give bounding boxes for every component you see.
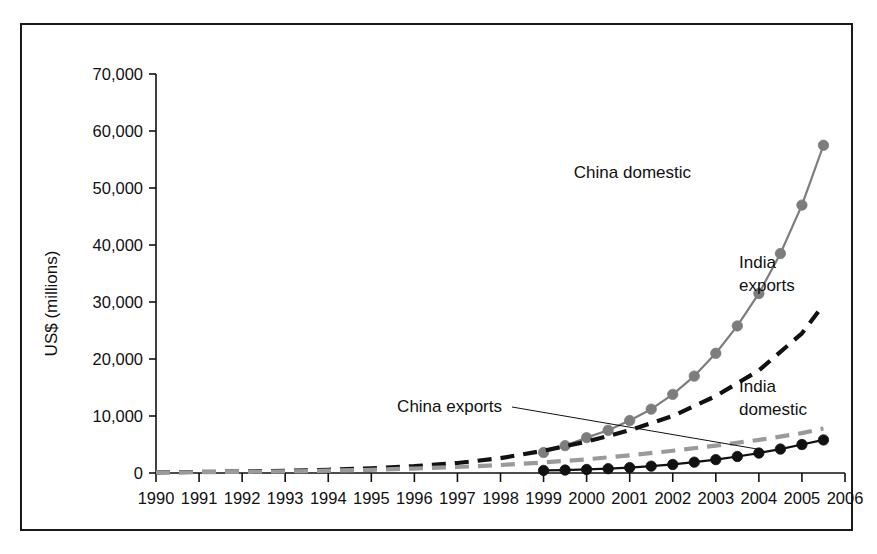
x-axis-tick-label: 2006 [827, 489, 864, 507]
series-marker-china-exports [775, 444, 785, 454]
annotation-label-china-exports: China exports [397, 397, 502, 416]
series-marker-china-exports [797, 439, 807, 449]
series-marker-china-domestic [646, 404, 656, 414]
x-axis-tick-label: 1998 [482, 489, 519, 507]
x-axis-tick-label: 1991 [181, 489, 218, 507]
annotation-india-exports: Indiaexports [739, 253, 795, 295]
series-marker-china-exports [581, 464, 591, 474]
series-marker-china-domestic [668, 389, 678, 399]
annotation-label-china-domestic: China domestic [574, 163, 692, 182]
series-marker-china-exports [818, 435, 828, 445]
x-axis-tick-label: 1990 [138, 489, 175, 507]
series-marker-china-exports [603, 463, 613, 473]
x-axis-tick-label: 1994 [310, 489, 347, 507]
x-axis-tick-label: 2005 [784, 489, 821, 507]
series-marker-china-exports [754, 448, 764, 458]
annotation-china-domestic: China domestic [574, 163, 692, 182]
series-marker-china-exports [689, 457, 699, 467]
y-axis-tick-label: 50,000 [93, 179, 143, 197]
annotation-india-domestic: Indiadomestic [739, 377, 808, 419]
y-axis-tick-label: 40,000 [93, 236, 143, 254]
y-axis-tick-label: 70,000 [93, 65, 143, 83]
series-marker-china-domestic [689, 371, 699, 381]
series-marker-china-exports [732, 451, 742, 461]
series-marker-china-exports [711, 454, 721, 464]
annotation-label-india-exports: exports [739, 276, 795, 295]
series-marker-china-exports [560, 465, 570, 475]
x-axis-tick-label: 2004 [741, 489, 778, 507]
series-marker-china-exports [646, 461, 656, 471]
series-marker-china-domestic [732, 321, 742, 331]
y-axis-tick-label: 30,000 [93, 293, 143, 311]
series-marker-china-domestic [711, 348, 721, 358]
series-marker-china-domestic [603, 425, 613, 435]
y-axis-tick-label: 10,000 [93, 407, 143, 425]
series-line-india-exports [156, 305, 823, 472]
annotation-label-india-exports: India [739, 253, 776, 272]
y-axis-title: US$ (millions) [42, 251, 61, 357]
x-axis-tick-label: 2003 [697, 489, 734, 507]
series-marker-china-domestic [624, 415, 634, 425]
annotation-label-india-domestic: India [739, 377, 776, 396]
x-axis-tick-label: 1996 [396, 489, 433, 507]
series-marker-china-exports [538, 465, 548, 475]
x-axis-tick-label: 2000 [568, 489, 605, 507]
annotation-label-india-domestic: domestic [739, 400, 808, 419]
x-axis-tick-label: 2001 [611, 489, 648, 507]
series-marker-china-exports [668, 459, 678, 469]
x-axis-tick-label: 1999 [525, 489, 562, 507]
x-axis-tick-label: 1993 [267, 489, 304, 507]
series-marker-china-domestic [797, 200, 807, 210]
chart-plot-area: 010,00020,00030,00040,00050,00060,00070,… [0, 0, 877, 554]
series-marker-china-domestic [581, 432, 591, 442]
y-axis-tick-label: 60,000 [93, 122, 143, 140]
y-axis-tick-label: 0 [134, 464, 143, 482]
x-axis-tick-label: 1992 [224, 489, 261, 507]
annotation-leader-line-china-exports [512, 407, 757, 449]
figure-container: 010,00020,00030,00040,00050,00060,00070,… [0, 0, 877, 554]
series-marker-china-exports [624, 462, 634, 472]
y-axis-tick-label: 20,000 [93, 350, 143, 368]
series-line-india-domestic [156, 429, 823, 473]
series-marker-china-domestic [818, 140, 828, 150]
x-axis-tick-label: 1997 [439, 489, 476, 507]
x-axis-tick-label: 2002 [654, 489, 691, 507]
x-axis-tick-label: 1995 [353, 489, 390, 507]
series-marker-china-domestic [775, 248, 785, 258]
